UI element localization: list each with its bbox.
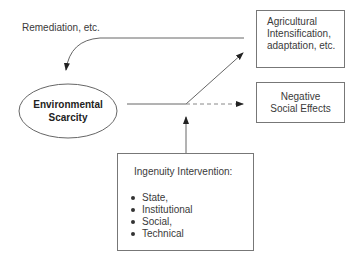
feedback-arrow <box>66 38 244 70</box>
adaptation-arrow <box>186 53 243 104</box>
negative-social-effects-box: Negative Social Effects <box>256 82 345 123</box>
environmental-scarcity-label: Environmental Scarcity <box>19 98 117 124</box>
ingenuity-intervention-box: Ingenuity Intervention: State, Instituti… <box>117 153 254 251</box>
outcome-line3: adaptation, etc. <box>267 40 344 52</box>
remediation-label: Remediation, etc. <box>22 22 100 34</box>
ingenuity-title: Ingenuity Intervention: <box>134 166 232 178</box>
negative-line2: Social Effects <box>270 103 330 115</box>
outcome-line1: Agricultural <box>267 16 344 28</box>
intervention-list: State, Institutional Social, Technical <box>130 192 193 240</box>
core-node-line1: Environmental <box>19 98 117 111</box>
negative-line1: Negative <box>270 91 330 103</box>
intervention-item: Institutional <box>130 204 193 216</box>
intervention-item: Technical <box>130 228 193 240</box>
intervention-item: Social, <box>130 216 193 228</box>
agricultural-intensification-box: Agricultural Intensification, adaptation… <box>256 10 345 68</box>
intervention-item: State, <box>130 192 193 204</box>
core-node-line2: Scarcity <box>19 111 117 124</box>
outcome-line2: Intensification, <box>267 28 344 40</box>
